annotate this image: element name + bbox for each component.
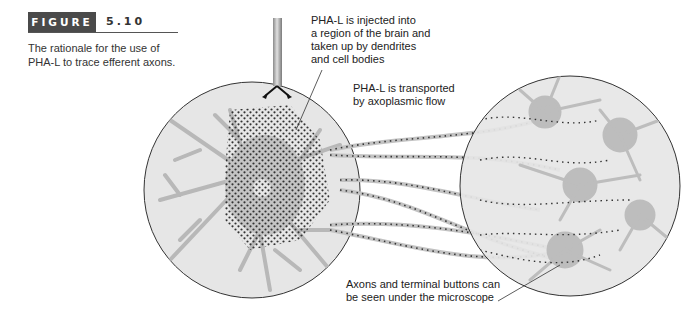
- callout-injection: PHA-L is injected into a region of the b…: [311, 14, 430, 66]
- callout-line: Axons and terminal buttons can: [346, 278, 500, 291]
- terminal-field-circle: [460, 75, 680, 296]
- injection-site-circle: [144, 82, 360, 298]
- callout-line: PHA-L is transported: [353, 82, 455, 95]
- callout-line: and cell bodies: [311, 53, 430, 66]
- callout-terminals: Axons and terminal buttons can be seen u…: [346, 278, 500, 304]
- callout-line: taken up by dendrites: [311, 40, 430, 53]
- callout-transport: PHA-L is transported by axoplasmic flow: [353, 82, 455, 108]
- callout-line: a region of the brain and: [311, 27, 430, 40]
- callout-line: PHA-L is injected into: [311, 14, 430, 27]
- callout-line: by axoplasmic flow: [353, 95, 455, 108]
- callout-line: be seen under the microscope: [346, 291, 500, 304]
